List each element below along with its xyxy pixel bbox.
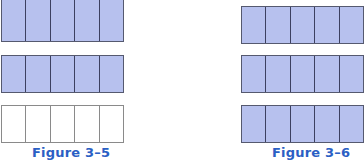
empty-cell [25,106,49,142]
shaded-cell [339,7,363,43]
shaded-cell [74,56,98,92]
empty-cell [99,106,123,142]
figure-caption: Figure 3–5 [32,145,110,160]
shaded-cell [74,0,98,41]
shaded-cell [314,106,338,142]
shaded-cell [99,56,123,92]
shaded-cell [2,0,25,41]
empty-cell [74,106,98,142]
shaded-cell [265,7,289,43]
fraction-strip-1 [241,6,364,44]
shaded-cell [314,56,338,92]
fraction-strip-3 [1,105,124,143]
shaded-cell [290,56,314,92]
figure-caption: Figure 3–6 [272,145,350,160]
shaded-cell [2,56,25,92]
shaded-cell [50,0,74,41]
shaded-cell [25,56,49,92]
shaded-cell [314,7,338,43]
shaded-cell [339,106,363,142]
shaded-cell [290,106,314,142]
shaded-cell [242,7,265,43]
fraction-strip-1 [1,0,124,42]
empty-cell [2,106,25,142]
shaded-cell [339,56,363,92]
shaded-cell [290,7,314,43]
shaded-cell [242,106,265,142]
fraction-strip-3 [241,105,364,143]
shaded-cell [265,106,289,142]
shaded-cell [99,0,123,41]
shaded-cell [50,56,74,92]
shaded-cell [265,56,289,92]
shaded-cell [242,56,265,92]
fraction-strip-2 [241,55,364,93]
shaded-cell [25,0,49,41]
fraction-strip-2 [1,55,124,93]
empty-cell [50,106,74,142]
